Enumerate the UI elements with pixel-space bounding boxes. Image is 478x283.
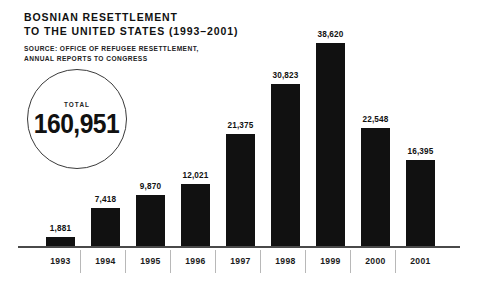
x-axis-tick-label: 1998 — [275, 256, 296, 266]
x-axis-tick-1995: 1995 — [128, 248, 173, 274]
x-axis-labels: 199319941995199619971998199920002001 — [18, 248, 460, 274]
x-axis-separator — [215, 250, 216, 273]
x-axis-tick-label: 1999 — [320, 256, 341, 266]
bar-group: 16,395 — [398, 8, 443, 247]
bar-group: 12,021 — [173, 8, 218, 247]
x-axis-tick-label: 1995 — [140, 256, 161, 266]
bar — [316, 43, 345, 247]
bar-value-label: 7,418 — [83, 195, 128, 204]
x-axis-tick-1996: 1996 — [173, 248, 218, 274]
x-axis-tick-1999: 1999 — [308, 248, 353, 274]
bar-group: 9,870 — [128, 8, 173, 247]
x-axis-tick-2001: 2001 — [398, 248, 443, 274]
x-axis-separator — [305, 250, 306, 273]
bar-value-label: 38,620 — [308, 30, 353, 39]
chart-page: BOSNIAN RESETTLEMENTTO THE UNITED STATES… — [0, 0, 478, 283]
x-axis-separator — [260, 250, 261, 273]
bar — [136, 195, 165, 247]
x-axis-tick-label: 1994 — [95, 256, 116, 266]
x-axis-tick-1998: 1998 — [263, 248, 308, 274]
bar — [91, 208, 120, 247]
bar-value-label: 30,823 — [263, 71, 308, 80]
bar — [181, 184, 210, 247]
bar-value-label: 1,881 — [38, 224, 83, 233]
x-axis-separator — [125, 250, 126, 273]
x-axis-tick-1993: 1993 — [38, 248, 83, 274]
bar — [271, 84, 300, 247]
x-axis-tick-label: 1997 — [230, 256, 251, 266]
bar-group: 1,881 — [38, 8, 83, 247]
bar-group: 7,418 — [83, 8, 128, 247]
bar-group: 30,823 — [263, 8, 308, 247]
x-axis-tick-label: 2001 — [410, 256, 431, 266]
bar — [361, 128, 390, 247]
bar — [226, 134, 255, 247]
bar-group: 21,375 — [218, 8, 263, 247]
x-axis-tick-2000: 2000 — [353, 248, 398, 274]
bar-value-label: 21,375 — [218, 121, 263, 130]
x-axis-separator — [170, 250, 171, 273]
x-axis-tick-label: 1996 — [185, 256, 206, 266]
x-axis-tick-1994: 1994 — [83, 248, 128, 274]
x-axis-separator — [350, 250, 351, 273]
bar-value-label: 16,395 — [398, 147, 443, 156]
bar-value-label: 22,548 — [353, 115, 398, 124]
x-axis-tick-label: 1993 — [50, 256, 71, 266]
x-axis-separator — [395, 250, 396, 273]
bars-container: 1,8817,4189,87012,02121,37530,82338,6202… — [18, 8, 460, 247]
bar-value-label: 12,021 — [173, 171, 218, 180]
bar-group: 22,548 — [353, 8, 398, 247]
bar-group: 38,620 — [308, 8, 353, 247]
x-axis-tick-1997: 1997 — [218, 248, 263, 274]
x-axis-tick-label: 2000 — [365, 256, 386, 266]
bar-value-label: 9,870 — [128, 182, 173, 191]
x-axis-separator — [80, 250, 81, 273]
bar — [406, 160, 435, 247]
